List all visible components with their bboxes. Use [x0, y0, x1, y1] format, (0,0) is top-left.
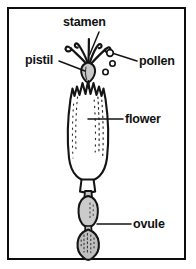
stem-and-ovule-group	[78, 191, 99, 260]
corolla-body-shape	[68, 82, 108, 182]
leader-line-pistil	[59, 61, 85, 71]
diagram-page: stamen pistil pollen flower ovule	[0, 0, 196, 269]
label-pollen: pollen	[139, 55, 175, 68]
flower-diagram-illustration	[0, 0, 196, 269]
label-ovule: ovule	[133, 218, 165, 231]
leader-line-pollen	[114, 54, 138, 62]
label-pistil: pistil	[25, 54, 53, 67]
ovary-swelling-shape	[79, 196, 98, 227]
pollen-grain-1	[107, 50, 114, 57]
label-flower: flower	[125, 113, 161, 126]
stamen-group	[66, 39, 111, 64]
label-stamen: stamen	[63, 16, 106, 29]
flower-corolla-group	[68, 82, 108, 193]
pistil-ovary-shape	[81, 63, 95, 83]
pollen-grain-3	[103, 69, 108, 74]
pollen-grain-2	[110, 61, 115, 66]
